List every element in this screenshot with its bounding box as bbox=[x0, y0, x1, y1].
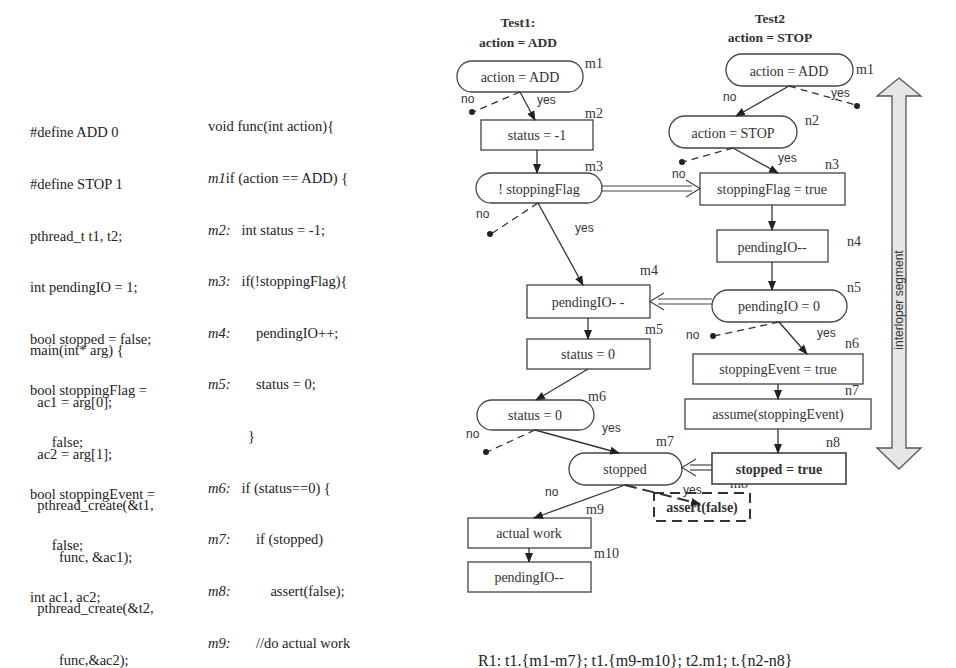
test1-subtitle: action = ADD bbox=[479, 35, 557, 50]
node-t2-n8: stopped = true n8 bbox=[712, 435, 846, 484]
node-t2-n2: action = STOP n2 bbox=[669, 113, 819, 148]
node-t1-m5: status = 0 m5 bbox=[527, 322, 663, 369]
svg-text:m5: m5 bbox=[645, 322, 663, 337]
interloper-segment-label: interloper segment bbox=[892, 250, 906, 350]
svg-text:pendingIO--: pendingIO-- bbox=[737, 240, 807, 255]
node-t1-m1: action = ADD m1 bbox=[457, 56, 603, 92]
svg-text:action = STOP: action = STOP bbox=[691, 126, 774, 141]
svg-text:yes: yes bbox=[575, 221, 594, 235]
svg-text:yes: yes bbox=[683, 483, 702, 497]
test2-subtitle: action = STOP bbox=[728, 30, 813, 45]
svg-text:status = 0: status = 0 bbox=[561, 347, 615, 362]
svg-text:m9: m9 bbox=[586, 502, 604, 517]
test1-title: Test1: bbox=[501, 15, 536, 30]
node-t2-n6: stoppingEvent = true n6 bbox=[693, 336, 863, 384]
svg-text:stopped: stopped bbox=[603, 462, 647, 477]
svg-text:m10: m10 bbox=[594, 546, 619, 561]
node-t1-m10: pendingIO-- m10 bbox=[468, 546, 619, 592]
svg-text:pendingIO- -: pendingIO- - bbox=[552, 295, 625, 310]
node-t2-n5: pendingIO = 0 n5 bbox=[712, 280, 861, 322]
svg-text:m3: m3 bbox=[585, 159, 603, 174]
svg-text:n5: n5 bbox=[847, 280, 861, 295]
node-t1-m7: stopped m7 bbox=[569, 434, 682, 485]
svg-text:m6: m6 bbox=[588, 389, 606, 404]
node-t1-m4: pendingIO- - m4 bbox=[527, 263, 658, 318]
run-legend: R1: t1.{m1-m7}; t1.{m9-m10}; t2.m1; t.{n… bbox=[478, 603, 805, 668]
svg-text:yes: yes bbox=[778, 151, 797, 165]
svg-text:no: no bbox=[686, 328, 700, 342]
svg-text:yes: yes bbox=[831, 86, 850, 100]
svg-text:no: no bbox=[466, 427, 480, 441]
svg-text:m4: m4 bbox=[640, 263, 658, 278]
svg-text:n3: n3 bbox=[825, 157, 839, 172]
node-t1-m2: status = -1 m2 bbox=[481, 106, 603, 150]
svg-text:m1: m1 bbox=[585, 56, 603, 71]
svg-text:m7: m7 bbox=[656, 434, 674, 449]
svg-text:! stoppingFlag: ! stoppingFlag bbox=[498, 182, 579, 197]
svg-text:no: no bbox=[476, 207, 490, 221]
node-t1-m6: status = 0 m6 bbox=[477, 389, 606, 430]
svg-text:m2: m2 bbox=[585, 106, 603, 121]
node-t2-n3: stoppingFlag = true n3 bbox=[700, 157, 845, 205]
svg-text:pendingIO--: pendingIO-- bbox=[494, 570, 564, 585]
node-t2-n4: pendingIO-- n4 bbox=[717, 230, 861, 262]
svg-text:n8: n8 bbox=[826, 435, 840, 450]
svg-text:m1: m1 bbox=[856, 62, 874, 77]
flow-diagram: Test1: action = ADD Test2 action = STOP … bbox=[0, 0, 956, 668]
node-t1-m9: actual work m9 bbox=[468, 502, 604, 548]
svg-text:no: no bbox=[545, 485, 559, 499]
svg-text:stoppingEvent = true: stoppingEvent = true bbox=[719, 362, 837, 377]
svg-text:yes: yes bbox=[602, 421, 621, 435]
node-t1-m3: ! stoppingFlag m3 bbox=[476, 159, 603, 203]
node-t2-m1: action = ADD m1 bbox=[726, 54, 874, 86]
interloper-segment-arrow: interloper segment bbox=[877, 78, 921, 469]
svg-text:yes: yes bbox=[537, 93, 556, 107]
svg-text:no: no bbox=[723, 90, 737, 104]
svg-text:status = 0: status = 0 bbox=[508, 408, 562, 423]
svg-text:n6: n6 bbox=[845, 336, 859, 351]
test2-title: Test2 bbox=[755, 11, 786, 26]
svg-text:stoppingFlag = true: stoppingFlag = true bbox=[717, 182, 827, 197]
svg-text:no: no bbox=[461, 92, 475, 106]
svg-text:status = -1: status = -1 bbox=[508, 128, 566, 143]
svg-text:stopped = true: stopped = true bbox=[736, 462, 823, 477]
svg-text:n7: n7 bbox=[845, 383, 859, 398]
svg-text:no: no bbox=[672, 167, 686, 181]
svg-text:assume(stoppingEvent): assume(stoppingEvent) bbox=[712, 407, 844, 423]
svg-text:action = ADD: action = ADD bbox=[481, 70, 560, 85]
svg-text:n2: n2 bbox=[805, 113, 819, 128]
svg-text:yes: yes bbox=[817, 326, 836, 340]
svg-text:assert(false): assert(false) bbox=[666, 500, 738, 516]
svg-text:action = ADD: action = ADD bbox=[750, 64, 829, 79]
run-r1: R1: t1.{m1-m7}; t1.{m9-m10}; t2.m1; t.{n… bbox=[478, 649, 805, 668]
svg-text:pendingIO = 0: pendingIO = 0 bbox=[738, 299, 820, 314]
svg-text:n4: n4 bbox=[847, 234, 861, 249]
svg-text:actual work: actual work bbox=[496, 526, 562, 541]
